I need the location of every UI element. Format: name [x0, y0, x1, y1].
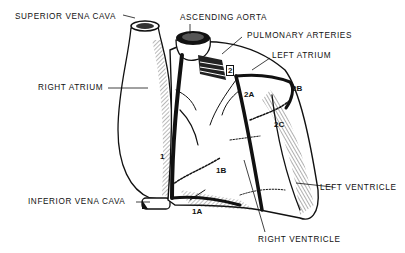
heart-diagram: SUPERIOR VENA CAVA ASCENDING AORTA PULMO… [0, 0, 405, 253]
label-right-atrium: RIGHT ATRIUM [38, 83, 103, 93]
right-atrium-shape [118, 21, 175, 200]
marker-2c: 2C [274, 120, 284, 129]
marker-1: 1 [160, 152, 164, 161]
label-left-atrium: LEFT ATRIUM [272, 51, 331, 61]
label-right-ventricle: RIGHT VENTRICLE [258, 235, 341, 245]
marker-2a: 2A [244, 90, 254, 99]
inferior-vena-cava-shape [142, 198, 170, 209]
marker-1a: 1A [192, 207, 202, 216]
label-inferior-vena-cava: INFERIOR VENA CAVA [28, 197, 125, 207]
marker-2: 2 [226, 65, 234, 76]
label-pulmonary-arteries: PULMONARY ARTERIES [247, 31, 352, 41]
ventricles-shape [168, 42, 318, 219]
marker-2b: 2B [292, 84, 302, 93]
label-left-ventricle: LEFT VENTRICLE [320, 183, 397, 193]
label-superior-vena-cava: SUPERIOR VENA CAVA [15, 12, 116, 22]
marker-1b: 1B [216, 166, 226, 175]
label-ascending-aorta: ASCENDING AORTA [180, 13, 267, 23]
